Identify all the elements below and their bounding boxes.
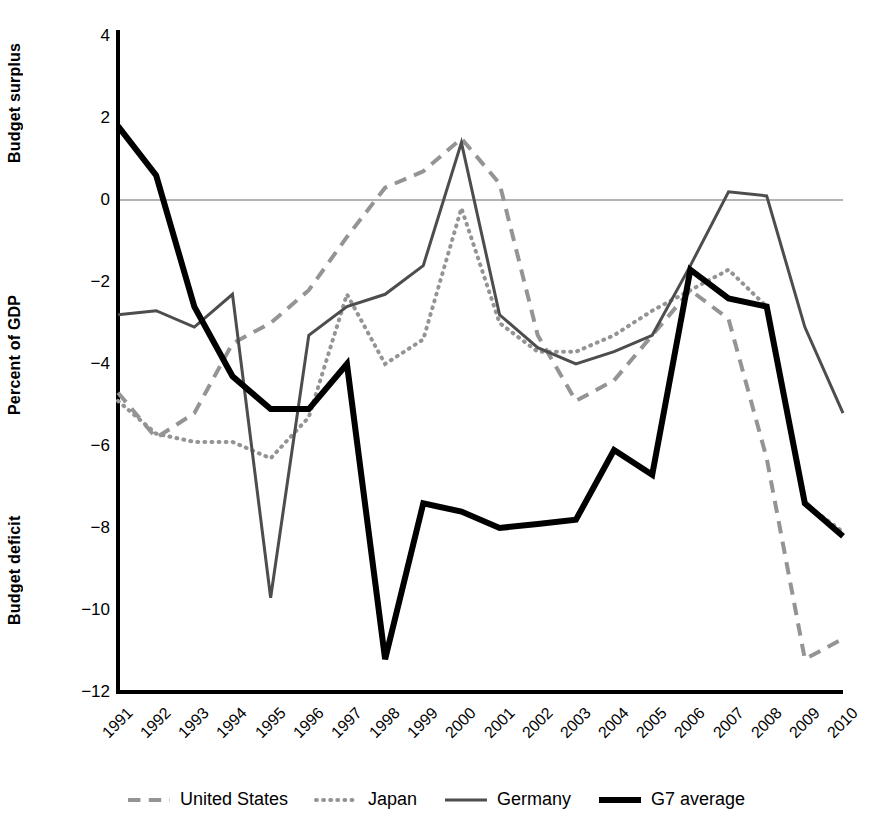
legend-item-germany[interactable]: Germany xyxy=(443,789,571,810)
legend-swatch-solid-icon xyxy=(443,792,489,808)
legend-label: G7 average xyxy=(651,789,745,810)
legend-label: United States xyxy=(180,789,288,810)
budget-balance-chart: Budget surplus Percent of GDP Budget def… xyxy=(0,0,871,830)
series-line-united-states xyxy=(118,139,843,660)
legend-swatch-solid-icon xyxy=(597,792,643,808)
legend-swatch-dashed-icon xyxy=(126,792,172,808)
chart-legend: United StatesJapanGermanyG7 average xyxy=(0,789,871,810)
legend-item-japan[interactable]: Japan xyxy=(314,789,417,810)
legend-item-g7-average[interactable]: G7 average xyxy=(597,789,745,810)
series-line-g7-average xyxy=(118,126,843,659)
plot-area xyxy=(0,0,871,830)
legend-label: Japan xyxy=(368,789,417,810)
legend-item-united-states[interactable]: United States xyxy=(126,789,288,810)
legend-swatch-dotted-icon xyxy=(314,792,360,808)
legend-label: Germany xyxy=(497,789,571,810)
